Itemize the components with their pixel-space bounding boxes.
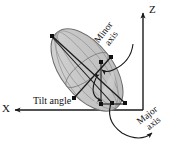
x-axis-label: X bbox=[2, 103, 10, 114]
z-axis-label: Z bbox=[149, 4, 156, 15]
vertex-dot bbox=[50, 34, 54, 38]
vertex-dot bbox=[109, 55, 113, 59]
figure-canvas bbox=[0, 0, 183, 155]
vertex-dot bbox=[123, 101, 127, 105]
vertex-dot bbox=[99, 102, 103, 106]
vertex-dot bbox=[72, 96, 76, 100]
ellipsoid-tilt-angle-figure: Z X Minor axis Major axis Tilt angle bbox=[0, 0, 183, 155]
vertex-dot bbox=[99, 60, 103, 64]
tilt-angle-label: Tilt angle bbox=[33, 95, 71, 106]
